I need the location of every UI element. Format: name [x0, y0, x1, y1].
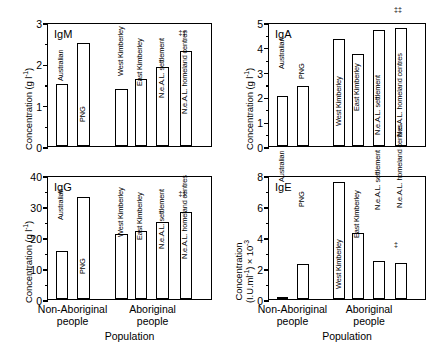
plot-area-ige: IgE02468AustralianPNGWest KimberleyEast … — [268, 176, 426, 300]
y-axis-title-ige: Concentration(I.U.ml-1) × 10-3 — [234, 240, 255, 303]
bar-label-ige-1: PNG — [298, 191, 306, 207]
y-tick-ige-1 — [264, 269, 269, 270]
y-tick-label-ige-3: 6 — [257, 202, 263, 214]
bar-ige-4 — [373, 261, 385, 299]
y-minor-tick-ige — [266, 192, 269, 193]
y-minor-tick-ige — [266, 254, 269, 255]
bar-ige-1 — [297, 264, 309, 299]
y-tick-label-ige-2: 4 — [257, 233, 263, 245]
bar-label-ige-0: Australian — [278, 151, 286, 182]
annotation-ige-5: ‡ — [394, 241, 398, 248]
bar-ige-3 — [352, 233, 364, 299]
panel-ige: Concentration(I.U.ml-1) × 10-3IgE02468Au… — [0, 0, 440, 352]
bar-label-ige-3: East Kimberley — [353, 190, 361, 238]
immunoglobulin-figure: Concentration (g l-1)IgM0123AustralianPN… — [0, 0, 440, 352]
bar-label-ige-2: West Kimberley — [335, 240, 343, 290]
bar-label-ige-5: N.e.A.L. homeland centres — [396, 125, 404, 209]
y-tick-label-ige-1: 2 — [257, 264, 263, 276]
bar-ige-5 — [395, 263, 407, 299]
y-minor-tick-ige — [266, 285, 269, 286]
x-group-label-ige-1: Aboriginalpeople — [319, 303, 419, 327]
x-axis-title-ige: Population — [297, 330, 397, 342]
bar-ige-0 — [277, 297, 289, 299]
y-minor-tick-ige — [266, 223, 269, 224]
y-tick-ige-2 — [264, 238, 269, 239]
y-tick-ige-3 — [264, 207, 269, 208]
panel-title-ige: IgE — [275, 181, 292, 193]
y-tick-label-ige-4: 8 — [257, 171, 263, 183]
y-tick-ige-0 — [264, 300, 269, 301]
bar-label-ige-4: N.e.A.L. settlement — [374, 150, 382, 210]
y-tick-ige-4 — [264, 176, 269, 177]
